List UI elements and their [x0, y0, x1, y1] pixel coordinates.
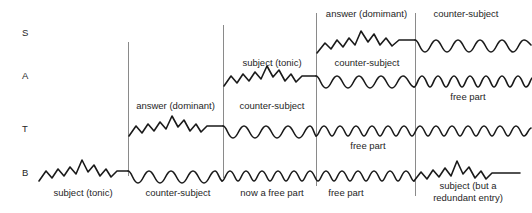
- voice-label-bass: B: [22, 167, 29, 178]
- voice-label-alto: A: [22, 70, 29, 81]
- voice-label-soprano: S: [22, 27, 29, 38]
- label-s-answer-domimant: answer (domimant): [318, 8, 415, 20]
- stave-A-counter-wave: [316, 76, 414, 88]
- label-a-subject-tonic: subject (tonic): [228, 57, 316, 69]
- stave-B-subject-zigzag: [39, 160, 128, 181]
- label-a-counter-subject: counter-subject: [322, 57, 412, 69]
- stave-S-subject-zigzag: [317, 31, 415, 53]
- label-b-subject-redundant-line2: redundant entry): [420, 192, 516, 204]
- stave-T-subject-zigzag: [129, 116, 223, 136]
- stave-B-free-wave: [222, 171, 414, 181]
- label-b-now-a-free-part: now a free part: [228, 187, 316, 199]
- stave-A-subject-zigzag: [224, 66, 316, 86]
- label-t-free-part: free part: [340, 140, 396, 152]
- label-t-counter-subject: counter-subject: [228, 100, 316, 112]
- label-b-subject-tonic: subject (tonic): [38, 187, 128, 199]
- stave-B-counter-wave: [128, 171, 222, 183]
- label-b-subject-redundant-line1: subject (but a: [420, 180, 516, 192]
- label-b-counter-subject: counter-subject: [133, 187, 223, 199]
- label-b-free-part: free part: [318, 187, 374, 199]
- stave-B-subject-redundant-zigzag: [414, 161, 520, 181]
- stave-T-counter-wave: [223, 126, 316, 138]
- label-s-counter-subject: counter-subject: [420, 8, 512, 20]
- stave-A-free-wave: [414, 76, 532, 87]
- label-t-answer-dominant: answer (dominant): [128, 100, 223, 112]
- stave-T-free-wave: [316, 126, 531, 136]
- stave-S-counter-wave: [415, 40, 531, 52]
- voice-label-tenor: T: [22, 123, 28, 134]
- fugue-structure-diagram: S A T B subject (tonic) answer (dominant…: [0, 0, 532, 213]
- label-a-free-part: free part: [440, 91, 496, 103]
